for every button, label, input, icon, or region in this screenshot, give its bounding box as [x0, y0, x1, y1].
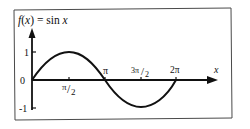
sine-graph-figure: f(x) = sin x 1 0 -1 π / 2 π 3π / 2	[0, 0, 250, 129]
y-tick-label-minus-1: -1	[19, 103, 27, 114]
y-tick-label-1: 1	[24, 47, 29, 58]
x-tick-label-two-pi: 2π	[170, 65, 180, 75]
svg-text:3π: 3π	[131, 66, 139, 75]
sine-graph-svg: f(x) = sin x 1 0 -1 π / 2 π 3π / 2	[0, 0, 250, 129]
x-axis-label: x	[213, 64, 219, 75]
chart-title: f(x) = sin x	[18, 14, 69, 27]
x-tick-label-pi: π	[103, 65, 108, 76]
svg-text:2: 2	[71, 87, 76, 97]
svg-text:2: 2	[145, 70, 149, 79]
y-tick-label-0: 0	[20, 75, 25, 86]
